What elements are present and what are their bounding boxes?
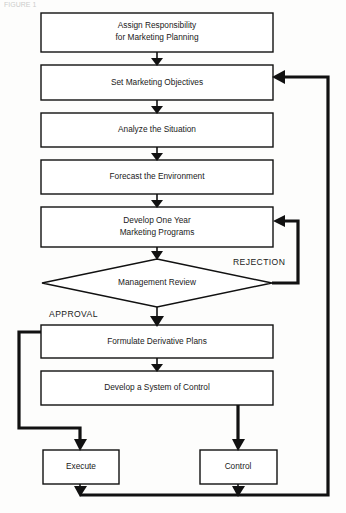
label-forecast-the-environment: Forecast the Environment [110,171,206,181]
label-analyze-the-situation: Analyze the Situation [118,124,196,134]
label-assign-responsibility-line1: Assign Responsibility [118,20,197,30]
label-rejection-branch: REJECTION [233,257,285,267]
label-execute: Execute [66,461,96,471]
label-set-marketing-objectives: Set Marketing Objectives [111,77,203,87]
label-formulate-derivative-plans: Formulate Derivative Plans [107,336,207,346]
flowchart-canvas: Assign Responsibility for Marketing Plan… [0,0,346,513]
connector-rejection-loop [272,221,298,283]
flowchart-figure: FIGURE 1 [0,0,346,513]
label-develop-a-system-of-control: Develop a System of Control [104,382,210,392]
label-control: Control [225,461,252,471]
label-develop-one-year-line2: Marketing Programs [120,227,195,237]
arrowhead-into-execute [74,439,87,451]
arrowhead-into-control [232,439,245,451]
label-assign-responsibility-line2: for Marketing Planning [115,32,198,42]
arrowhead-develop-to-review [151,251,163,260]
label-management-review: Management Review [118,277,197,287]
label-develop-one-year-line1: Develop One Year [123,215,191,225]
label-approval-branch: APPROVAL [49,309,98,319]
arrowhead-feedback-into-objectives [272,70,285,84]
arrowhead-rejection-into-develop [273,215,285,227]
